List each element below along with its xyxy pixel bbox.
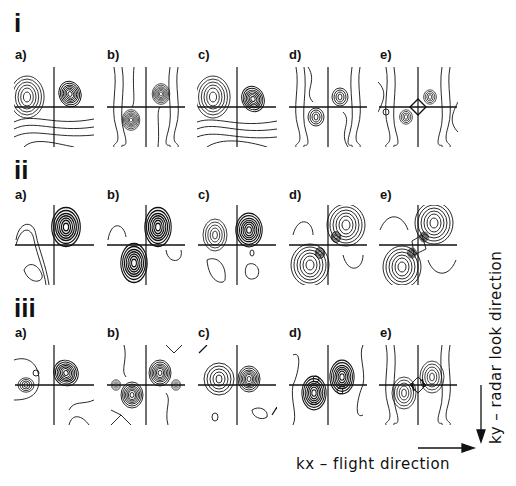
ky-axis-label: ky – radar look direction — [487, 251, 505, 444]
panel-i-c — [196, 67, 277, 147]
panel-ii-d — [289, 204, 367, 286]
kx-axis-label: kx – flight direction — [296, 455, 450, 473]
panel-ii-a — [15, 205, 94, 285]
kx-arrow — [418, 444, 474, 452]
panel-i-d — [289, 67, 367, 147]
panel-iii-e — [379, 345, 457, 425]
panel-ii-e — [379, 202, 457, 288]
panel-iii-c — [198, 345, 277, 425]
panel-ii-b — [107, 205, 185, 285]
panel-iii-a — [14, 345, 94, 425]
panel-iii-d — [289, 345, 367, 425]
panel-i-a — [10, 67, 94, 147]
ky-arrow — [477, 385, 485, 442]
panel-iii-b — [107, 345, 185, 425]
panel-i-e — [378, 67, 458, 147]
panel-ii-c — [198, 205, 276, 285]
panel-i-b — [107, 67, 185, 147]
contour-figure — [0, 0, 516, 486]
